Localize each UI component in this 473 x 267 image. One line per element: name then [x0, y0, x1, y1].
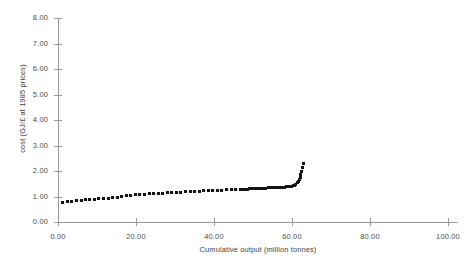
- data-point: [111, 196, 114, 199]
- data-point: [161, 192, 164, 195]
- data-point: [143, 193, 146, 196]
- data-point: [102, 197, 105, 200]
- data-point: [264, 187, 267, 190]
- x-tick-label: 20.00: [113, 232, 159, 241]
- data-point: [281, 186, 284, 189]
- data-point: [220, 189, 223, 192]
- data-point: [271, 186, 274, 189]
- data-point: [202, 189, 205, 192]
- data-point: [267, 186, 270, 189]
- data-point: [274, 186, 277, 189]
- y-tick-mark: [54, 44, 62, 45]
- y-tick-label: 0.00: [0, 217, 48, 226]
- data-point: [120, 195, 123, 198]
- data-point: [300, 170, 303, 173]
- x-axis-line: [58, 222, 458, 223]
- series-connector-line: [0, 0, 473, 267]
- y-tick-label: 1.00: [0, 192, 48, 201]
- data-point: [179, 191, 182, 194]
- data-point: [276, 186, 279, 189]
- data-point: [152, 192, 155, 195]
- data-point: [246, 188, 249, 191]
- plot-area: [0, 0, 473, 267]
- data-point: [255, 187, 258, 190]
- data-point: [184, 190, 187, 193]
- x-tick-mark: [448, 218, 449, 226]
- data-point: [239, 188, 242, 191]
- data-point: [170, 191, 173, 194]
- data-point: [175, 191, 178, 194]
- data-point: [302, 162, 305, 165]
- data-point: [234, 188, 237, 191]
- data-point: [148, 192, 151, 195]
- data-point: [107, 197, 110, 200]
- data-point: [292, 184, 295, 187]
- data-point: [278, 186, 281, 189]
- x-tick-mark: [214, 218, 215, 226]
- data-point: [293, 184, 296, 187]
- data-point: [129, 194, 132, 197]
- data-point: [198, 190, 201, 193]
- data-point: [66, 200, 69, 203]
- data-point: [166, 191, 169, 194]
- data-point: [225, 188, 228, 191]
- data-point: [80, 199, 83, 202]
- data-point: [138, 193, 141, 196]
- data-point: [88, 198, 91, 201]
- data-point: [207, 189, 210, 192]
- data-point: [125, 194, 128, 197]
- x-tick-mark: [136, 218, 137, 226]
- y-tick-mark: [54, 171, 62, 172]
- y-axis-title: cost (GJ/£ at 1985 prices): [18, 29, 27, 189]
- data-point: [134, 193, 137, 196]
- data-point: [241, 188, 244, 191]
- x-tick-label: 80.00: [347, 232, 393, 241]
- data-point: [93, 198, 96, 201]
- data-point: [250, 187, 253, 190]
- data-point: [248, 187, 251, 190]
- x-axis-title: Cumulative output (million tonnes): [58, 245, 458, 254]
- y-tick-mark: [54, 95, 62, 96]
- data-point: [193, 190, 196, 193]
- y-tick-mark: [54, 120, 62, 121]
- data-point: [70, 200, 73, 203]
- x-tick-mark: [58, 218, 59, 226]
- data-point: [216, 189, 219, 192]
- x-tick-label: 100.00: [425, 232, 471, 241]
- y-tick-mark: [54, 146, 62, 147]
- data-point: [157, 192, 160, 195]
- data-point: [301, 166, 304, 169]
- data-point: [297, 180, 300, 183]
- data-point: [294, 183, 297, 186]
- data-point: [61, 201, 64, 204]
- data-point: [299, 176, 302, 179]
- data-point: [260, 187, 263, 190]
- y-tick-mark: [54, 69, 62, 70]
- x-tick-label: 40.00: [191, 232, 237, 241]
- x-tick-label: 60.00: [269, 232, 315, 241]
- data-point: [290, 185, 293, 188]
- y-tick-mark: [54, 197, 62, 198]
- chart-container: 0.001.002.003.004.005.006.007.008.00 0.0…: [0, 0, 473, 267]
- data-point: [75, 199, 78, 202]
- data-point: [288, 185, 291, 188]
- x-tick-label: 0.00: [35, 232, 81, 241]
- data-point: [269, 186, 272, 189]
- data-point: [253, 187, 256, 190]
- y-tick-mark: [54, 18, 62, 19]
- y-tick-label: 8.00: [0, 13, 48, 22]
- data-point: [116, 196, 119, 199]
- data-point: [97, 197, 100, 200]
- data-point: [296, 181, 299, 184]
- x-tick-mark: [292, 218, 293, 226]
- data-point: [283, 186, 286, 189]
- data-point: [299, 173, 302, 176]
- x-tick-mark: [370, 218, 371, 226]
- data-point: [257, 187, 260, 190]
- data-point: [84, 198, 87, 201]
- data-point: [243, 188, 246, 191]
- data-point: [189, 190, 192, 193]
- data-point: [285, 185, 288, 188]
- data-point: [298, 178, 301, 181]
- data-point: [262, 187, 265, 190]
